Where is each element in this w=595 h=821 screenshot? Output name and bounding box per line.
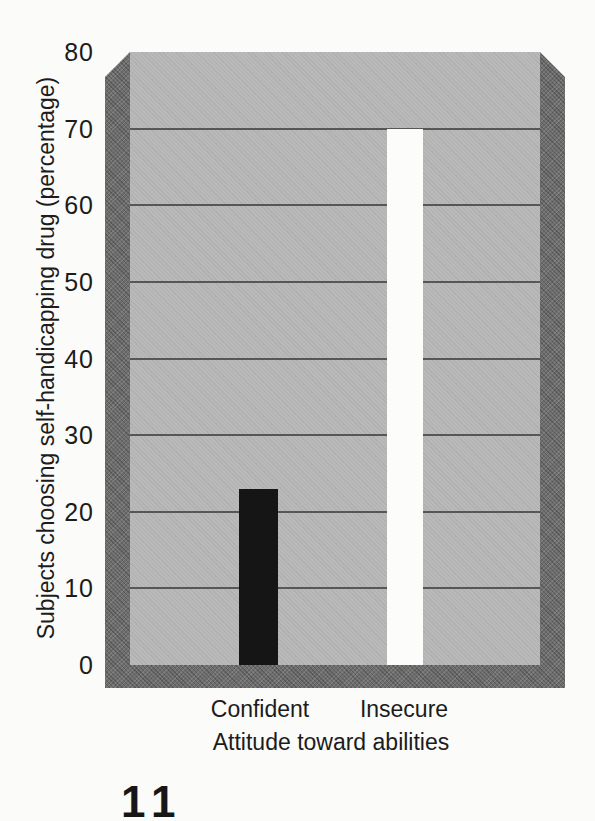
gridline [130,281,540,283]
gridline [130,587,540,589]
y-tick-label: 60 [64,191,94,220]
y-tick-label: 30 [64,421,94,450]
x-category-label-confident: Confident [211,696,309,723]
gridline [130,204,540,206]
bar-confident [239,489,278,665]
y-tick-label: 40 [64,344,94,373]
x-category-label-insecure: Insecure [360,696,448,723]
y-tick-label: 70 [64,114,94,143]
y-tick-label: 20 [64,497,94,526]
figure-number: 11 [121,777,184,821]
gridline [130,511,540,513]
y-axis-tick-labels: 01020304050607080 [30,52,94,665]
y-tick-label: 80 [64,38,94,67]
gridline [130,434,540,436]
gridlines [130,52,540,665]
x-axis-title: Attitude toward abilities [213,729,450,756]
gridline [130,128,540,130]
y-tick-label: 0 [79,651,94,680]
y-tick-label: 10 [64,574,94,603]
bar-insecure [387,129,423,665]
plot-area [130,52,540,665]
gridline [130,358,540,360]
y-tick-label: 50 [64,267,94,296]
plot-frame [105,52,565,688]
